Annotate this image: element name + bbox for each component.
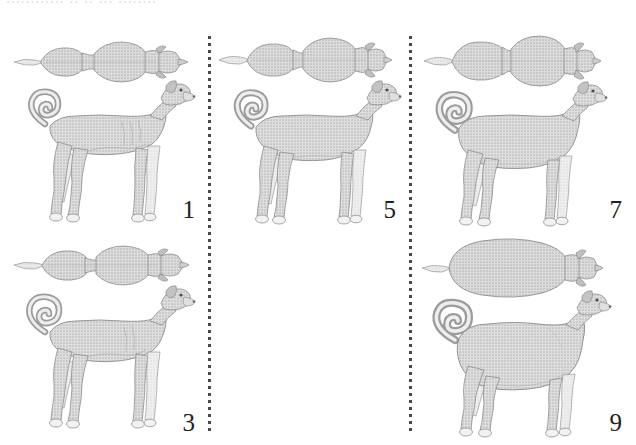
clipped-header-text-label: ............ .. .. ... ........	[6, 0, 157, 6]
score-label-9: 9	[610, 410, 623, 435]
score-cell-1[interactable]: 1	[4, 20, 209, 232]
score-cell-9[interactable]: 9	[414, 228, 636, 445]
dog-side-view-score-7	[428, 76, 610, 228]
score-cell-5[interactable]: 5	[213, 20, 410, 232]
score-label-5: 5	[384, 197, 397, 222]
dog-side-view-score-5	[225, 74, 401, 226]
clipped-header-text: ............ .. .. ... ........	[0, 0, 636, 9]
dog-side-view-score-9	[426, 288, 612, 438]
score-label-7: 7	[610, 197, 623, 222]
dog-side-view-score-1	[18, 72, 196, 224]
dog-side-view-score-3	[18, 276, 196, 431]
score-label-3: 3	[183, 410, 196, 435]
score-cell-7[interactable]: 7	[414, 20, 636, 232]
score-cell-empty	[213, 228, 410, 445]
body-condition-score-grid: 1	[0, 12, 636, 445]
score-cell-3[interactable]: 3	[4, 228, 209, 445]
score-label-1: 1	[183, 197, 196, 222]
